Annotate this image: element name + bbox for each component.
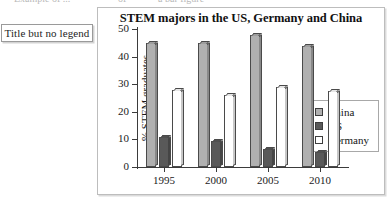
bar-side-face (259, 34, 262, 166)
bar-side-face (272, 148, 275, 166)
y-tick: 50 (132, 29, 137, 30)
legend-item-china: China (315, 105, 373, 119)
y-tick: 10 (132, 139, 137, 140)
bar-us-2010 (315, 152, 325, 167)
bar-side-face (181, 89, 184, 166)
y-tick-mark (132, 57, 137, 58)
x-tick-label: 1995 (153, 174, 175, 186)
header-fragment-mid: of (118, 0, 126, 4)
y-tick-mark (132, 112, 137, 113)
bar-us-1995 (159, 137, 169, 167)
legend-item-germany: Germany (315, 133, 373, 147)
bar-side-face (207, 42, 210, 166)
y-tick-label: 50 (118, 22, 129, 34)
y-tick: 0 (132, 167, 137, 168)
chart-title: STEM majors in the US, Germany and China (98, 11, 384, 26)
header-fragment-right: a bar figure (158, 0, 204, 4)
y-tick-mark (132, 139, 137, 140)
x-tick-label: 2010 (309, 174, 331, 186)
legend-swatch-icon (315, 122, 323, 130)
x-tick-label: 2005 (257, 174, 279, 186)
y-tick: 20 (132, 112, 137, 113)
y-tick-mark (132, 84, 137, 85)
x-tick-mark (216, 168, 217, 172)
y-tick-label: 30 (118, 77, 129, 89)
bar-us-2000 (211, 141, 221, 167)
bar-germany-2005 (276, 87, 286, 167)
x-tick-mark (320, 168, 321, 172)
bar-china-2005 (250, 35, 260, 167)
bar-germany-2000 (224, 95, 234, 167)
bar-china-1995 (146, 43, 156, 167)
x-tick-mark (268, 168, 269, 172)
header-fragment-left: Example of ... (14, 0, 70, 4)
bar-china-2000 (198, 43, 208, 167)
bar-side-face (337, 91, 340, 166)
bar-germany-1995 (172, 90, 182, 167)
bar-germany-2010 (328, 91, 338, 167)
y-tick-label: 40 (118, 50, 129, 62)
legend-swatch-icon (315, 136, 323, 144)
y-tick-mark (132, 167, 137, 168)
x-tick-label: 2000 (205, 174, 227, 186)
bar-side-face (285, 86, 288, 166)
y-tick-label: 0 (124, 160, 130, 172)
annotation-callout-label: Title but no legend (5, 27, 90, 39)
y-tick-label: 20 (118, 105, 129, 117)
bar-side-face (324, 151, 327, 166)
annotation-callout-box: Title but no legend (1, 24, 93, 42)
y-tick: 30 (132, 84, 137, 85)
bar-side-face (233, 95, 236, 166)
chart-legend: ChinaUSGermany (309, 100, 379, 152)
bar-side-face (155, 42, 158, 166)
bar-side-face (311, 45, 314, 166)
legend-swatch-icon (315, 108, 323, 116)
bar-china-2010 (302, 46, 312, 167)
y-tick: 40 (132, 57, 137, 58)
y-tick-mark (132, 29, 137, 30)
x-tick-mark (164, 168, 165, 172)
bar-side-face (220, 140, 223, 166)
bar-chart-figure: STEM majors in the US, Germany and China… (97, 7, 385, 195)
y-tick-label: 10 (118, 132, 129, 144)
bar-side-face (168, 136, 171, 166)
x-axis-line (137, 167, 349, 168)
bar-us-2005 (263, 149, 273, 167)
legend-item-us: US (315, 119, 373, 133)
